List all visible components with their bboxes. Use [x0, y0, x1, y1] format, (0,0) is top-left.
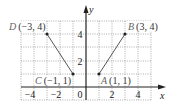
x-tick-label: 0: [78, 89, 83, 100]
point-d-label: D(−3, 4): [8, 21, 46, 33]
y-tick-label: 4: [78, 29, 83, 40]
point-b-label: B(3, 4): [128, 21, 158, 33]
y-tick-label: 2: [78, 56, 83, 67]
point-b: [123, 32, 126, 35]
point-d: [45, 32, 48, 35]
coordinate-plane: y x −4 −2 0 2 4 2 4 A(1, 1) B(3, 4) C(−1…: [0, 0, 173, 109]
y-axis-arrow-icon: [84, 5, 89, 13]
y-axis: [84, 5, 89, 100]
x-tick-label: −4: [25, 89, 36, 100]
x-axis-arrow-icon: [158, 85, 166, 90]
x-tick-label: −2: [51, 89, 62, 100]
x-tick-label: 2: [110, 89, 115, 100]
y-axis-label: y: [88, 4, 94, 15]
x-axis-label: x: [159, 90, 165, 101]
point-c-label: C(−1, 1): [35, 75, 71, 87]
x-tick-label: 4: [136, 89, 141, 100]
point-a-label: A(1, 1): [100, 75, 131, 87]
